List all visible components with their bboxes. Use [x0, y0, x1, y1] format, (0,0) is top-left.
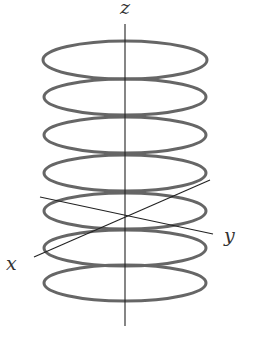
cylinder-rings-diagram: z y x [0, 0, 258, 345]
y-axis-label: y [223, 224, 235, 246]
axes-group [34, 24, 213, 326]
z-axis-label: z [119, 0, 131, 18]
diagram-canvas: z y x [0, 0, 258, 345]
x-axis-label: x [6, 252, 17, 274]
